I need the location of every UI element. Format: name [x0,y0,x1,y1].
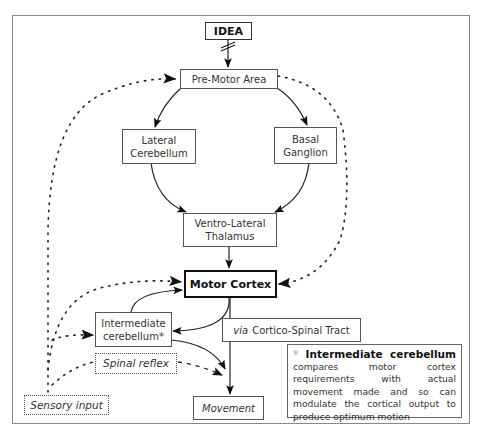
node-lateral-cerebellum: Lateral Cerebellum [122,129,196,164]
node-spinal-reflex: Spinal reflex [95,353,177,374]
motor-control-diagram: IDEA Pre-Motor Area Lateral Cerebellum B… [0,0,484,440]
node-label-line: Intermediate [101,317,166,330]
edge-premotor-lateral [155,88,181,127]
label-cortico-spinal-tract: via Cortico-Spinal Tract [222,318,361,342]
via-prefix: via [233,324,248,337]
node-label-line: Thalamus [206,230,255,243]
node-idea: IDEA [205,22,252,40]
node-label-line: Lateral [142,134,177,147]
edge-sensory-spinal [52,362,93,385]
note-title-word: cerebellum [390,348,456,361]
node-label-line: Cerebellum [130,147,187,160]
node-movement-label: Movement [202,402,255,415]
node-intermediate-cerebellum: Intermediate cerebellum* [95,312,172,347]
node-label-line: cerebellum* [103,330,164,343]
edge-intermediate-movement [171,340,225,369]
note-title: * Intermediate cerebellum [293,348,456,361]
node-sensory-input: Sensory input [24,395,109,415]
node-idea-label: IDEA [214,25,243,38]
node-label-line: Ganglion [283,146,328,159]
edge-premotor-basal [277,88,307,125]
node-label-line: Ventro-Lateral [194,217,265,230]
note-title-word: Intermediate [306,348,383,361]
node-movement: Movement [193,396,264,420]
node-spinal-reflex-label: Spinal reflex [103,357,169,370]
edge-lateral-thalamus [151,163,186,212]
node-pre-motor-area-label: Pre-Motor Area [192,73,267,86]
intermediate-cerebellum-note: * Intermediate cerebellum compares motor… [287,344,462,418]
node-pre-motor-area: Pre-Motor Area [180,69,278,89]
node-motor-cortex: Motor Cortex [184,270,277,298]
cortico-spinal-tract-text: Cortico-Spinal Tract [252,324,350,337]
edge-basal-thalamus [275,163,309,212]
footnote-star-icon: * [293,348,298,361]
edge-spinal-movement [178,362,222,375]
edge-premotor-motorcortex [278,76,347,284]
node-basal-ganglion: Basal Ganglion [274,127,337,164]
node-ventro-lateral-thalamus: Ventro-Lateral Thalamus [183,213,277,247]
node-label-line: Basal [292,133,319,146]
note-body: compares motor cortex requirements with … [293,361,456,424]
edge-intermediate-motorcortex [131,290,182,312]
node-motor-cortex-label: Motor Cortex [190,278,271,291]
node-sensory-input-label: Sensory input [30,399,103,412]
edge-motorcortex-intermediate [173,297,229,331]
edge-sensory-intermediate [52,335,93,340]
